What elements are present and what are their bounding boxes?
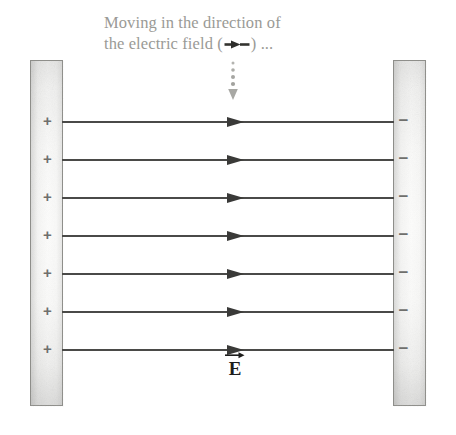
- caption-line-2-text-after: ) ...: [251, 34, 274, 53]
- positive-charge-symbol: +: [41, 151, 55, 166]
- dotted-down-arrow-icon: [224, 60, 242, 102]
- positive-charge-symbol: +: [41, 113, 55, 128]
- positive-charge-symbol: +: [41, 265, 55, 280]
- negative-charge-symbol: −: [397, 113, 411, 128]
- positive-charge-symbol: +: [41, 341, 55, 356]
- electric-field-label: E: [222, 358, 248, 377]
- caption-line-2-text-before: the electric field (: [104, 34, 223, 53]
- electric-field-arrowhead: [227, 269, 244, 279]
- negative-charge-symbol: −: [397, 151, 411, 166]
- figure-caption: Moving in the direction of the electric …: [104, 12, 364, 54]
- positive-charge-symbol: +: [41, 189, 55, 204]
- negative-charge-symbol: −: [397, 189, 411, 204]
- electric-field-arrowhead: [227, 155, 244, 165]
- electric-field-arrowhead: [227, 117, 244, 127]
- negative-charge-symbol: −: [397, 227, 411, 242]
- electric-field-arrowhead: [227, 231, 244, 241]
- positive-charge-symbol: +: [41, 303, 55, 318]
- electric-field-arrowhead: [227, 307, 244, 317]
- negative-charge-symbol: −: [397, 265, 411, 280]
- right-arrow-icon: [224, 34, 250, 55]
- electric-field-arrowhead: [227, 193, 244, 203]
- negative-charge-symbol: −: [397, 341, 411, 356]
- figure-canvas: Moving in the direction of the electric …: [0, 0, 456, 435]
- caption-line-2: the electric field () ...: [104, 33, 364, 54]
- caption-line-1: Moving in the direction of: [104, 12, 364, 33]
- positive-charge-symbol: +: [41, 227, 55, 242]
- electric-field-label-glyph: E: [229, 358, 242, 379]
- negative-charge-symbol: −: [397, 303, 411, 318]
